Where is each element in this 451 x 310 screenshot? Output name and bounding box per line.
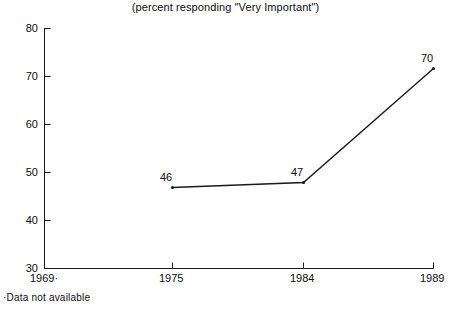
chart-container: (percent responding "Very Important") 80… xyxy=(0,0,451,310)
x-axis-label-1989: 1989 xyxy=(420,273,444,284)
y-axis-label-40: 40 xyxy=(8,215,38,226)
x-axis-label-1984: 1984 xyxy=(290,273,314,284)
data-point-1984 xyxy=(302,181,305,184)
data-label-1989: 70 xyxy=(421,53,433,64)
data-label-1975: 46 xyxy=(160,172,172,183)
y-axis-label-70: 70 xyxy=(8,71,38,82)
x-axis-label-1975: 1975 xyxy=(159,273,183,284)
chart-plot-area xyxy=(0,0,451,310)
data-point-1989 xyxy=(432,67,435,70)
footnote-data-not-available: ·Data not available xyxy=(3,292,90,303)
x-axis-label-1969: 1969· xyxy=(30,273,58,284)
data-label-1984: 47 xyxy=(291,167,303,178)
y-axis-label-60: 60 xyxy=(8,119,38,130)
data-point-1975 xyxy=(171,186,174,189)
y-axis-label-80: 80 xyxy=(8,23,38,34)
y-axis-label-50: 50 xyxy=(8,167,38,178)
